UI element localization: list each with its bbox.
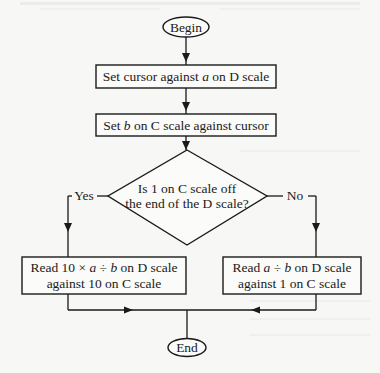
end-label: End (176, 340, 198, 355)
arrow-down-icon (64, 223, 72, 232)
begin-terminal: Begin (163, 17, 209, 37)
step1-text-a: Set cursor against (103, 69, 202, 84)
step-set-cursor: Set cursor against a on D scale (96, 65, 276, 88)
no-box-line2: against 1 on C scale (238, 276, 346, 291)
no-text-2: ÷ (270, 260, 284, 275)
step2-text-a: Set (103, 118, 124, 133)
svg-text:Set b on C scale against curso: Set b on C scale against cursor (103, 118, 269, 133)
yes-text-3: on D scale (117, 260, 177, 275)
decision-line2: the end of the D scale? (125, 196, 248, 211)
arrow-down-icon (182, 53, 190, 62)
yes-box-line2: against 10 on C scale (47, 276, 162, 291)
yes-label: Yes (74, 188, 94, 203)
end-terminal: End (168, 339, 206, 357)
step-read-no: Read a ÷ b on D scale against 1 on C sca… (223, 257, 361, 294)
svg-text:Read 10 × a ÷ b on D scale: Read 10 × a ÷ b on D scale (30, 260, 177, 275)
decision-line1: Is 1 on C scale off (138, 181, 237, 196)
arrow-left-icon (251, 307, 260, 314)
no-branch: No (267, 188, 320, 257)
arrow-down-icon (312, 223, 320, 232)
arrow-right-icon (124, 307, 133, 314)
no-text-1: Read (232, 260, 263, 275)
begin-label: Begin (170, 20, 202, 35)
no-text-3: on D scale (291, 260, 351, 275)
yes-text-1: Read 10 × (30, 260, 89, 275)
flowchart: Begin Set cursor against a on D scale Se… (0, 0, 380, 373)
no-label: No (287, 188, 304, 203)
decision-diamond: Is 1 on C scale off the end of the D sca… (108, 150, 267, 245)
step-set-b: Set b on C scale against cursor (96, 114, 276, 136)
svg-text:Set cursor against a on D scal: Set cursor against a on D scale (103, 69, 269, 84)
step1-text-b: on D scale (209, 69, 269, 84)
arrow-down-icon (182, 141, 190, 150)
yes-text-2: ÷ (96, 260, 110, 275)
arrow-down-icon (182, 102, 190, 111)
step-read-yes: Read 10 × a ÷ b on D scale against 10 on… (22, 257, 186, 294)
yes-branch: Yes (64, 188, 108, 257)
svg-text:Read a ÷ b on D scale: Read a ÷ b on D scale (232, 260, 351, 275)
step2-text-b: on C scale against cursor (131, 118, 270, 133)
